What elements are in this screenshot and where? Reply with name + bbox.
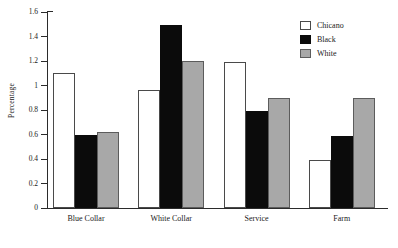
legend-label: Chicano xyxy=(317,21,344,30)
bar-black-service xyxy=(246,111,268,208)
legend-item[interactable]: White xyxy=(300,47,344,60)
legend-swatch-icon xyxy=(300,35,311,44)
bar-white-farm xyxy=(353,98,375,208)
bar-black-blue-collar xyxy=(75,135,97,209)
y-axis-tick-label: 0.2 xyxy=(0,180,38,188)
legend-swatch-icon xyxy=(300,21,311,30)
bar-white-white-collar xyxy=(182,61,204,208)
legend-label: White xyxy=(317,49,337,58)
legend-item[interactable]: Chicano xyxy=(300,19,344,32)
bar-chicano-service xyxy=(224,62,246,208)
y-axis-tick-label: 1.2 xyxy=(0,57,38,65)
bar-chicano-farm xyxy=(309,160,331,208)
x-axis-category-label: Farm xyxy=(297,214,387,223)
x-axis-category-label: Service xyxy=(212,214,302,223)
x-axis-category-label: White Collar xyxy=(126,214,216,223)
bar-white-service xyxy=(268,98,290,208)
legend-label: Black xyxy=(317,35,336,44)
y-axis-tick-label: 0.8 xyxy=(0,106,38,114)
y-axis-tick-label: 0.4 xyxy=(0,155,38,163)
x-axis-line xyxy=(47,208,388,209)
y-axis-tick-label: 0 xyxy=(0,204,38,212)
bar-chicano-white-collar xyxy=(138,90,160,208)
bar-black-white-collar xyxy=(160,25,182,208)
bar-chicano-blue-collar xyxy=(53,73,75,208)
y-axis-tick-label: 0.6 xyxy=(0,131,38,139)
y-axis-tick-label: 1 xyxy=(0,82,38,90)
y-axis-tick-label: 1.4 xyxy=(0,33,38,41)
legend-swatch-icon xyxy=(300,49,311,58)
bar-white-blue-collar xyxy=(97,132,119,208)
legend-item[interactable]: Black xyxy=(300,33,344,46)
y-axis-tick-label: 1.6 xyxy=(0,8,38,16)
legend: Chicano Black White xyxy=(300,19,344,61)
bar-chart: Percentage 00.20.40.60.811.21.41.6 Blue … xyxy=(0,0,398,248)
x-axis-category-label: Blue Collar xyxy=(41,214,131,223)
bar-black-farm xyxy=(331,136,353,208)
